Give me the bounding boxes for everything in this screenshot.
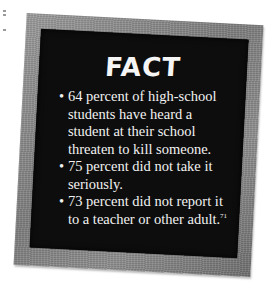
chalkboard: FACT • 64 percent of high-school student… [29, 29, 248, 259]
fact-item: • 75 percent did not take it seriously. [59, 158, 236, 193]
page-edge-mark [3, 14, 6, 16]
bullet-icon: • [59, 193, 64, 211]
fact-text: 75 percent did not take it seriously. [68, 158, 213, 192]
fact-text: 73 percent did not report it to a teache… [68, 193, 223, 227]
fact-item: • 64 percent of high-school students hav… [59, 88, 236, 158]
page-edge-mark [3, 29, 6, 31]
chalkboard-frame: FACT • 64 percent of high-school student… [14, 13, 264, 277]
fact-list: • 64 percent of high-school students hav… [59, 88, 236, 228]
fact-title: FACT [38, 52, 248, 82]
fact-text: 64 percent of high-school students have … [68, 88, 217, 156]
bullet-icon: • [59, 158, 64, 176]
fact-item: • 73 percent did not report it to a teac… [59, 193, 236, 228]
bullet-icon: • [59, 88, 64, 106]
page-edge-mark [3, 10, 6, 12]
footnote-reference: 71 [220, 211, 227, 219]
